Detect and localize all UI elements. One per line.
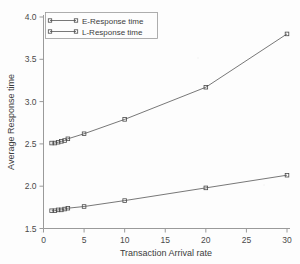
- legend-label-1: L-Response time: [82, 28, 143, 37]
- series-line-0: [52, 175, 287, 211]
- line-chart: 1.52.02.53.03.54.0 051015202530 E-Respon…: [0, 0, 300, 264]
- x-axis-ticks: 051015202530: [41, 229, 292, 245]
- x-tick-label-3: 15: [161, 235, 171, 245]
- legend: E-Response time L-Response time: [46, 13, 158, 39]
- y-axis-ticks: 1.52.02.53.03.54.0: [25, 12, 44, 234]
- series-line-1: [52, 34, 287, 143]
- x-tick-label-6: 30: [282, 235, 292, 245]
- y-axis-title: Average Response time: [6, 74, 16, 170]
- y-tick-label-5: 4.0: [25, 12, 37, 22]
- legend-label-0: E-Response time: [82, 17, 144, 26]
- chart-figure: 1.52.02.53.03.54.0 051015202530 E-Respon…: [0, 0, 300, 264]
- x-tick-label-1: 5: [82, 235, 87, 245]
- y-tick-label-4: 3.5: [25, 54, 37, 64]
- series-e-response-time: [50, 173, 289, 212]
- x-axis-title: Transaction Arrival rate: [120, 248, 212, 258]
- x-tick-label-0: 0: [41, 235, 46, 245]
- series-l-response-time: [50, 32, 289, 145]
- legend-item-e-response-time[interactable]: E-Response time: [48, 17, 144, 26]
- x-tick-label-4: 20: [201, 235, 211, 245]
- x-tick-label-2: 10: [120, 235, 130, 245]
- y-tick-label-0: 1.5: [25, 224, 37, 234]
- y-tick-label-2: 2.5: [25, 139, 37, 149]
- series-layer: [50, 32, 289, 212]
- legend-item-l-response-time[interactable]: L-Response time: [48, 28, 143, 37]
- y-tick-label-3: 3.0: [25, 97, 37, 107]
- x-tick-label-5: 25: [242, 235, 252, 245]
- y-tick-label-1: 2.0: [25, 181, 37, 191]
